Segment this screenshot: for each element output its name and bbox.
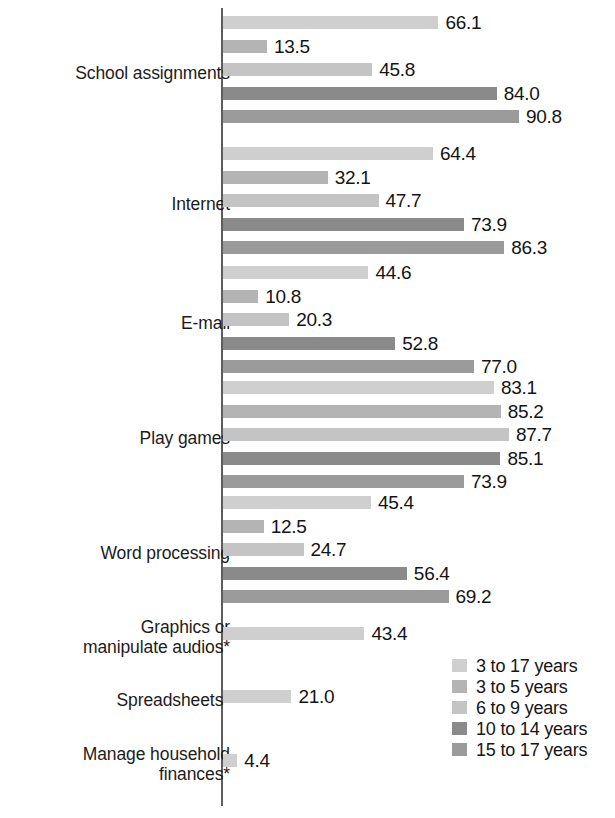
category-label: School assignments [12, 63, 230, 83]
bar [223, 40, 267, 53]
legend-item: 3 to 5 years [452, 676, 587, 697]
bar-value-label: 12.5 [271, 516, 307, 537]
bar [223, 110, 519, 123]
category-label: Manage household finances* [12, 744, 230, 784]
legend-label: 3 to 5 years [476, 677, 568, 697]
bar [223, 360, 474, 373]
bar-value-label: 45.4 [378, 492, 414, 513]
category-label: Internet [12, 194, 230, 214]
bar [223, 194, 379, 207]
bar-value-label: 24.7 [311, 539, 347, 560]
bar-value-label: 45.8 [379, 59, 415, 80]
category-label: Graphics or manipulate audios* [12, 617, 230, 657]
bar-value-label: 66.1 [445, 12, 481, 33]
legend-item: 10 to 14 years [452, 718, 587, 739]
bar [223, 266, 368, 279]
bar [223, 218, 464, 231]
legend-swatch-icon [452, 659, 467, 672]
bar [223, 171, 328, 184]
bar [223, 690, 291, 703]
legend-item: 3 to 17 years [452, 655, 587, 676]
bar-value-label: 77.0 [481, 356, 517, 377]
bar [223, 63, 372, 76]
bar-value-label: 64.4 [440, 143, 476, 164]
bar-value-label: 44.6 [375, 262, 411, 283]
bar [223, 520, 264, 533]
bar-value-label: 90.8 [526, 106, 562, 127]
bar [223, 496, 371, 509]
bar-value-label: 86.3 [511, 237, 547, 258]
bar [223, 87, 497, 100]
category-label: Word processing [12, 543, 230, 563]
bar-value-label: 47.7 [386, 190, 422, 211]
legend-swatch-icon [452, 680, 467, 693]
bar [223, 627, 364, 640]
category-label: Play games [12, 428, 230, 448]
bar-value-label: 84.0 [504, 83, 540, 104]
category-label: E-mail [12, 313, 230, 333]
horizontal-bar-chart: School assignments66.113.545.884.090.8In… [0, 0, 615, 818]
bar [223, 405, 501, 418]
bar-value-label: 85.1 [507, 448, 543, 469]
bar-value-label: 52.8 [402, 333, 438, 354]
bar [223, 337, 395, 350]
bar [223, 543, 304, 556]
bar [223, 290, 258, 303]
bar-value-label: 83.1 [501, 377, 537, 398]
bar-value-label: 87.7 [516, 424, 552, 445]
legend-label: 3 to 17 years [476, 656, 577, 676]
legend-swatch-icon [452, 701, 467, 714]
bar [223, 590, 449, 603]
legend-item: 6 to 9 years [452, 697, 587, 718]
legend-label: 6 to 9 years [476, 698, 568, 718]
bar [223, 241, 504, 254]
bar-value-label: 43.4 [371, 623, 407, 644]
bar [223, 452, 500, 465]
bar [223, 754, 237, 767]
legend-swatch-icon [452, 722, 467, 735]
bar-value-label: 21.0 [298, 686, 334, 707]
bar [223, 313, 289, 326]
legend-swatch-icon [452, 743, 467, 756]
bar-value-label: 73.9 [471, 214, 507, 235]
bar [223, 475, 464, 488]
legend-label: 15 to 17 years [476, 740, 587, 760]
bar [223, 381, 494, 394]
chart-legend: 3 to 17 years3 to 5 years6 to 9 years10 … [452, 655, 587, 760]
bar-value-label: 4.4 [244, 750, 270, 771]
bar-value-label: 85.2 [508, 401, 544, 422]
legend-label: 10 to 14 years [476, 719, 587, 739]
bar-value-label: 73.9 [471, 471, 507, 492]
bar-value-label: 13.5 [274, 36, 310, 57]
bar [223, 428, 509, 441]
category-label: Spreadsheets* [12, 690, 230, 710]
bar [223, 567, 407, 580]
bar [223, 147, 433, 160]
legend-item: 15 to 17 years [452, 739, 587, 760]
bar-value-label: 10.8 [265, 286, 301, 307]
bar [223, 16, 438, 29]
bar-value-label: 56.4 [414, 563, 450, 584]
bar-value-label: 69.2 [456, 586, 492, 607]
bar-value-label: 32.1 [335, 167, 371, 188]
bar-value-label: 20.3 [296, 309, 332, 330]
